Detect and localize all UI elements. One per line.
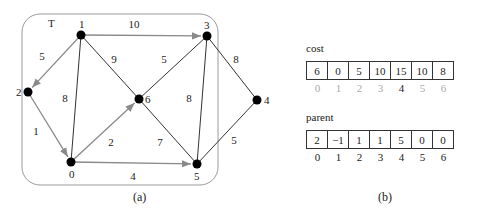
node-label-6: 6 xyxy=(145,93,151,105)
edge-weight-6-3: 5 xyxy=(161,53,167,65)
cost-array-title: cost xyxy=(306,42,324,54)
cost-cell-1: 0 xyxy=(327,61,349,80)
node-4 xyxy=(253,96,262,105)
edge-1-3-tree xyxy=(81,35,201,36)
cost-cell-2: 5 xyxy=(348,61,370,80)
node-5 xyxy=(193,160,202,169)
cost-index-1: 1 xyxy=(328,82,349,94)
parent-cell-0: 2 xyxy=(306,130,328,149)
node-3 xyxy=(203,32,212,41)
parent-array-title: parent xyxy=(306,111,333,123)
tree-label: T xyxy=(48,17,55,29)
edge-weight-0-6: 2 xyxy=(108,136,114,148)
cost-index-5: 5 xyxy=(412,82,433,94)
cost-cell-6: 8 xyxy=(432,61,454,80)
cost-index-0: 0 xyxy=(307,82,328,94)
edge-0-6-tree xyxy=(71,103,135,162)
parent-index-1: 1 xyxy=(328,151,349,163)
graph-diagram: T 5124108957885 0123456 xyxy=(0,0,300,214)
edge-weight-1-3: 10 xyxy=(129,18,141,30)
edge-weight-1-2: 5 xyxy=(39,50,45,62)
node-label-4: 4 xyxy=(264,94,270,106)
edge-6-5 xyxy=(139,99,197,164)
nodes-group xyxy=(24,31,262,169)
parent-index-4: 4 xyxy=(391,151,412,163)
parent-index-5: 5 xyxy=(412,151,433,163)
parent-array: 2−111500 xyxy=(306,130,454,149)
cost-cell-4: 15 xyxy=(390,61,412,80)
edge-1-6 xyxy=(81,35,139,99)
node-6 xyxy=(135,95,144,104)
node-label-2: 2 xyxy=(16,86,22,98)
parent-cell-1: −1 xyxy=(327,130,349,149)
cost-index-6: 6 xyxy=(433,82,454,94)
parent-cell-2: 1 xyxy=(348,130,370,149)
edge-3-4 xyxy=(207,36,257,100)
edge-3-5 xyxy=(197,36,207,164)
parent-index-6: 6 xyxy=(433,151,454,163)
cost-index-2: 2 xyxy=(349,82,370,94)
node-label-1: 1 xyxy=(79,18,85,30)
edge-weight-0-5: 4 xyxy=(130,170,136,182)
edge-weight-1-0: 8 xyxy=(62,92,68,104)
node-label-0: 0 xyxy=(69,168,75,180)
cost-index-4: 4 xyxy=(391,82,412,94)
parent-index-0: 0 xyxy=(307,151,328,163)
edge-4-5 xyxy=(197,100,257,164)
edge-6-3 xyxy=(139,36,207,99)
cost-cell-0: 6 xyxy=(306,61,328,80)
node-label-3: 3 xyxy=(204,19,210,31)
cost-cell-3: 10 xyxy=(369,61,391,80)
caption-b: (b) xyxy=(378,190,392,205)
edge-weight-2-0: 1 xyxy=(33,125,39,137)
edge-weight-6-5: 7 xyxy=(157,136,163,148)
cost-indices: 0123456 xyxy=(307,82,454,94)
edge-1-0 xyxy=(71,35,81,162)
edge-0-5-tree xyxy=(71,162,191,164)
caption-a: (a) xyxy=(133,190,146,205)
parent-index-3: 3 xyxy=(370,151,391,163)
cost-cell-5: 10 xyxy=(411,61,433,80)
parent-cell-4: 5 xyxy=(390,130,412,149)
edge-weight-3-4: 8 xyxy=(233,53,239,65)
node-2 xyxy=(24,88,33,97)
parent-indices: 0123456 xyxy=(307,151,454,163)
cost-array: 6051015108 xyxy=(306,61,454,80)
node-0 xyxy=(67,158,76,167)
edge-weight-3-5: 8 xyxy=(186,92,192,104)
node-1 xyxy=(77,31,86,40)
parent-cell-6: 0 xyxy=(432,130,454,149)
parent-cell-5: 0 xyxy=(411,130,433,149)
parent-index-2: 2 xyxy=(349,151,370,163)
edge-weight-1-6: 9 xyxy=(111,53,117,65)
edge-weight-4-5: 5 xyxy=(231,134,237,146)
cost-index-3: 3 xyxy=(370,82,391,94)
parent-cell-3: 1 xyxy=(369,130,391,149)
node-label-5: 5 xyxy=(194,170,200,182)
